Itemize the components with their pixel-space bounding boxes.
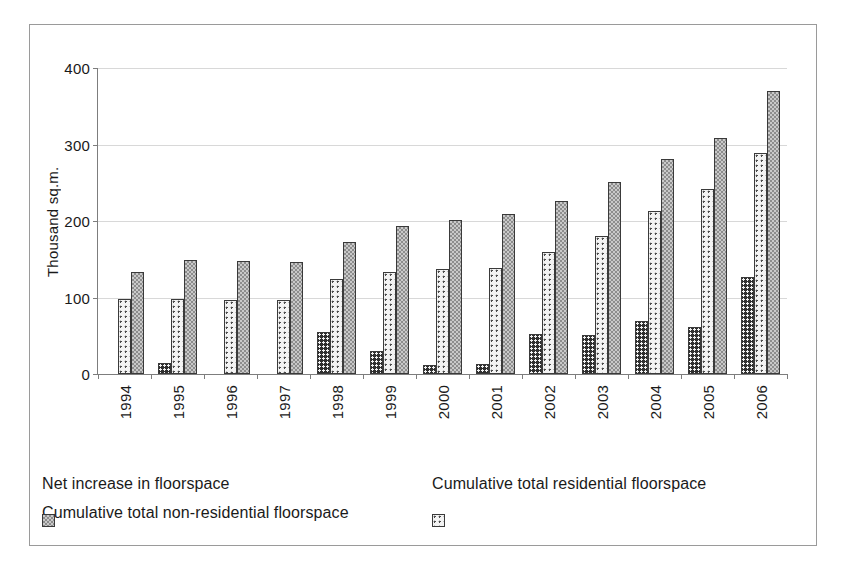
bar-non-residential-2003[interactable] [608,182,621,374]
legend-item-net-increase[interactable]: Net increase in floorspace [42,475,432,493]
bar-residential-2005[interactable] [701,189,714,374]
x-axis-tick-mark [204,374,205,379]
x-axis-tick-mark [257,374,258,379]
bar-net-increase-2006[interactable] [741,277,754,374]
bar-group [469,68,522,374]
x-axis-tick-mark [363,374,364,379]
bar-non-residential-2002[interactable] [555,201,568,374]
bar-residential-2002[interactable] [542,252,555,374]
x-axis-tick-label-1997: 1997 [276,385,293,419]
x-axis-tick-label-1999: 1999 [382,385,399,419]
legend-item-non-residential[interactable]: Cumulative total non-residential floorsp… [42,504,349,522]
x-axis-tick-label-2000: 2000 [435,385,452,419]
x-axis-tick-mark [416,374,417,379]
x-axis-tick-mark [575,374,576,379]
bar-net-increase-2002[interactable] [529,334,542,374]
chart-figure: Thousand sq.m. 0100200300400199419951996… [29,24,817,546]
legend-label-residential: Cumulative total residential floorspace [432,475,706,493]
x-axis-tick-label-2004: 2004 [647,385,664,419]
bar-non-residential-2000[interactable] [449,220,462,374]
bar-non-residential-1996[interactable] [237,261,250,374]
bar-net-increase-2001[interactable] [476,364,489,374]
bar-group [628,68,681,374]
x-axis-tick-mark [522,374,523,379]
bar-residential-1999[interactable] [383,272,396,375]
y-axis-tick-label: 200 [64,213,90,230]
x-axis-tick-mark [151,374,152,379]
bar-residential-2000[interactable] [436,269,449,374]
x-axis-tick-label-2003: 2003 [594,385,611,419]
x-axis-tick-mark [98,374,99,379]
y-axis-tick-label: 0 [81,366,90,383]
bar-group [310,68,363,374]
y-axis-tick-label: 400 [64,60,90,77]
bar-net-increase-1998[interactable] [317,332,330,374]
bar-group [734,68,787,374]
bar-group [416,68,469,374]
bar-group [257,68,310,374]
plot-area: 0100200300400199419951996199719981999200… [97,68,787,375]
bar-non-residential-2006[interactable] [767,91,780,374]
bar-net-increase-1995[interactable] [158,363,171,374]
bar-net-increase-1999[interactable] [370,351,383,374]
bar-residential-1997[interactable] [277,300,290,374]
legend-swatch-residential-icon [432,514,445,527]
x-axis-tick-label-2001: 2001 [488,385,505,419]
x-axis-tick-mark [310,374,311,379]
bar-non-residential-1995[interactable] [184,260,197,374]
bar-group [98,68,151,374]
bar-net-increase-2000[interactable] [423,365,436,374]
bar-group [151,68,204,374]
x-axis-tick-label-2005: 2005 [700,385,717,419]
bar-group [575,68,628,374]
bar-residential-1995[interactable] [171,299,184,374]
x-axis-tick-mark [628,374,629,379]
legend-item-residential[interactable]: Cumulative total residential floorspace [432,475,706,493]
bar-net-increase-2004[interactable] [635,321,648,374]
bar-group [681,68,734,374]
y-axis-tick-label: 100 [64,289,90,306]
y-axis-title: Thousand sq.m. [44,68,61,375]
x-axis-tick-mark [469,374,470,379]
legend-swatch-non-residential-icon [42,514,55,527]
x-axis-tick-mark [787,374,788,379]
bar-net-increase-2005[interactable] [688,327,701,374]
bar-group [363,68,416,374]
bar-non-residential-1997[interactable] [290,262,303,374]
legend-label-net-increase: Net increase in floorspace [42,475,230,493]
x-axis-tick-label-1996: 1996 [223,385,240,419]
legend-row-2: Cumulative total non-residential floorsp… [42,498,804,527]
x-axis-tick-label-1994: 1994 [117,385,134,419]
legend-label-non-residential: Cumulative total non-residential floorsp… [42,504,349,522]
bar-group [522,68,575,374]
x-axis-tick-label-2006: 2006 [753,385,770,419]
bar-non-residential-2005[interactable] [714,138,727,374]
chart-legend: Net increase in floorspace Cumulative to… [42,469,804,527]
legend-row-1: Net increase in floorspace Cumulative to… [42,469,804,498]
x-axis-tick-mark [734,374,735,379]
bar-non-residential-1994[interactable] [131,272,144,374]
y-axis-tick-label: 300 [64,136,90,153]
bar-non-residential-2001[interactable] [502,214,515,374]
bar-residential-2003[interactable] [595,236,608,374]
bar-non-residential-1999[interactable] [396,226,409,374]
x-axis-tick-label-1998: 1998 [329,385,346,419]
bar-residential-1998[interactable] [330,279,343,374]
bar-non-residential-2004[interactable] [661,159,674,374]
x-axis-tick-mark [681,374,682,379]
bar-residential-2004[interactable] [648,211,661,374]
bar-residential-1994[interactable] [118,299,131,374]
bar-net-increase-2003[interactable] [582,335,595,374]
x-axis-tick-label-1995: 1995 [170,385,187,419]
x-axis-tick-label-2002: 2002 [541,385,558,419]
bar-residential-2006[interactable] [754,153,767,374]
bar-non-residential-1998[interactable] [343,242,356,374]
bar-residential-2001[interactable] [489,268,502,374]
bar-residential-1996[interactable] [224,300,237,374]
bar-group [204,68,257,374]
